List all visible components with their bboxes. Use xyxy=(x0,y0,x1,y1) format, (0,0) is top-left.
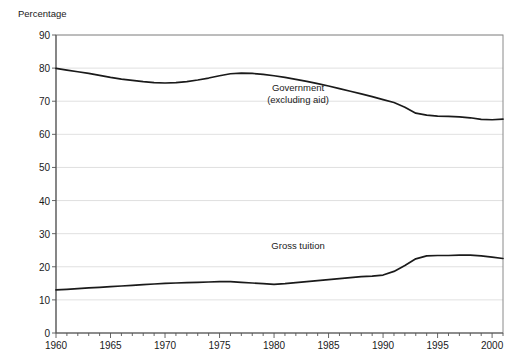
chart-container: Percentage 0102030405060708090 196019651… xyxy=(0,0,522,364)
y-axis-ticks xyxy=(52,35,56,333)
y-tick-label: 40 xyxy=(24,195,50,206)
y-tick-label: 20 xyxy=(24,261,50,272)
y-tick-label: 80 xyxy=(24,63,50,74)
chart-plot-area xyxy=(0,0,522,364)
x-tick-label: 1970 xyxy=(154,340,176,351)
series-annotation-label: Government xyxy=(272,82,324,93)
y-tick-label: 0 xyxy=(24,328,50,339)
y-tick-label: 70 xyxy=(24,96,50,107)
series-annotation-label: Gross tuition xyxy=(271,240,324,251)
y-tick-label: 90 xyxy=(24,30,50,41)
x-tick-label: 1990 xyxy=(372,340,394,351)
y-tick-label: 50 xyxy=(24,162,50,173)
series-line-gross-tuition xyxy=(56,255,503,290)
x-tick-label: 1980 xyxy=(263,340,285,351)
series-annotation-label: (excluding aid) xyxy=(267,94,329,105)
y-tick-label: 10 xyxy=(24,294,50,305)
x-tick-label: 2000 xyxy=(481,340,503,351)
x-axis-ticks xyxy=(56,333,503,338)
x-tick-label: 1985 xyxy=(317,340,339,351)
y-axis-title: Percentage xyxy=(18,8,67,19)
y-tick-label: 60 xyxy=(24,129,50,140)
y-tick-label: 30 xyxy=(24,228,50,239)
x-tick-label: 1995 xyxy=(426,340,448,351)
x-tick-label: 1960 xyxy=(45,340,67,351)
x-tick-label: 1965 xyxy=(99,340,121,351)
gridlines xyxy=(56,35,503,300)
x-tick-label: 1975 xyxy=(208,340,230,351)
